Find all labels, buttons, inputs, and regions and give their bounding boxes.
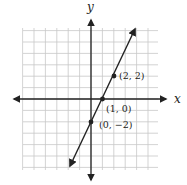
point-0-neg2 [89,120,94,125]
point-label-1-0: (1, 0) [106,103,132,114]
point-label-2-2: (2, 2) [119,70,145,81]
x-axis-label: x [174,92,181,106]
coordinate-plane: y x (2, 2) (1, 0) (0, −2) [0,0,187,185]
point-label-0-neg2: (0, −2) [99,119,133,130]
y-axis-label: y [86,0,94,14]
point-2-2 [112,74,117,79]
point-1-0 [100,97,105,102]
